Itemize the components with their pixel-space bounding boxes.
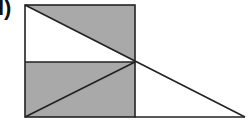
geometry-diagram: [0, 0, 252, 123]
